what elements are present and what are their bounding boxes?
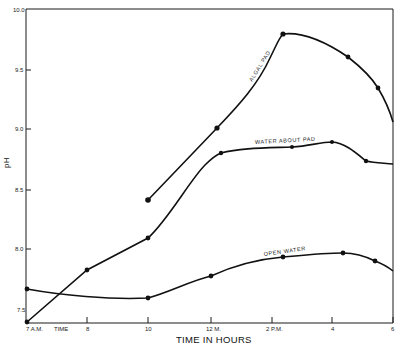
- series-algal-pad: [148, 34, 393, 200]
- series-open-water-markers: [25, 251, 378, 301]
- y-axis-title: pH: [2, 157, 11, 168]
- y-tick-9-0: 9.0: [15, 126, 24, 132]
- ph-line-chart: 10.0 9.5 9.0 8.5 8.0 7.5 pH 7 A.M. TIME …: [0, 0, 399, 345]
- y-ticks: [26, 70, 31, 249]
- x-axis-title: TIME IN HOURS: [176, 334, 252, 345]
- y-tick-8-5: 8.5: [15, 187, 24, 193]
- x-time-word: TIME: [54, 326, 68, 332]
- x-tick-2pm: 2 P.M.: [266, 326, 283, 332]
- x-tick-8: 8: [86, 326, 90, 332]
- label-water-about-pad: WATER ABOUT PAD: [255, 136, 316, 145]
- y-tick-7-5: 7.5: [17, 307, 26, 313]
- series-water-about-pad: [27, 142, 393, 322]
- x-ticks: [87, 317, 393, 323]
- x-tick-6: 6: [391, 326, 395, 332]
- y-tick-10-0: 10.0: [13, 7, 25, 13]
- x-tick-12m: 12 M.: [206, 326, 221, 332]
- x-tick-7am: 7 A.M.: [26, 326, 43, 332]
- series-water-about-pad-markers: [25, 140, 369, 324]
- x-tick-10: 10: [145, 326, 152, 332]
- x-tick-4: 4: [331, 326, 335, 332]
- y-tick-8-0: 8.0: [15, 246, 24, 252]
- y-tick-9-5: 9.5: [15, 67, 24, 73]
